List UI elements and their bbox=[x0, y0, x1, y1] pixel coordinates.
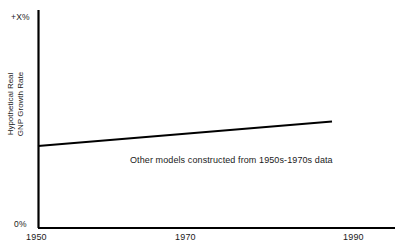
data-series-line bbox=[38, 122, 332, 147]
series-annotation-label: Other models constructed from 1950s-1970… bbox=[130, 155, 333, 165]
y-axis-tick-max: +X% bbox=[11, 12, 30, 22]
plot-area bbox=[0, 0, 405, 249]
x-axis-tick-1970: 1970 bbox=[175, 232, 196, 242]
y-axis-title-line-2: GNP Growth Rate bbox=[16, 44, 26, 164]
chart-container: +X% 0% 1950 1970 1990 Hypothetical Real … bbox=[0, 0, 405, 249]
y-axis-title-line-1: Hypothetical Real bbox=[6, 44, 16, 164]
x-axis-tick-1950: 1950 bbox=[26, 232, 47, 242]
x-axis-tick-1990: 1990 bbox=[343, 232, 364, 242]
y-axis-tick-zero: 0% bbox=[14, 219, 27, 229]
y-axis-title: Hypothetical Real GNP Growth Rate bbox=[6, 44, 26, 164]
